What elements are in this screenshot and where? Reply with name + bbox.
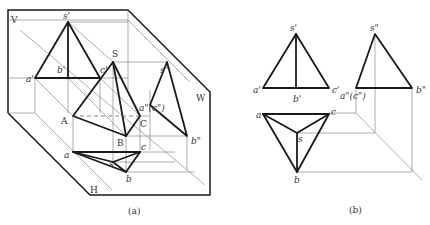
label-A: A [60,116,68,126]
label-b-dprime: b" [191,136,201,146]
caption-b: (b) [349,205,362,215]
label-a: a [256,110,261,120]
label-s: s [298,134,303,144]
side-view-triangle [356,34,412,88]
label-ac-dprime: a"(c") [139,103,165,113]
label-a-prime: a' [253,85,261,95]
label-s-dprime: s" [370,23,379,33]
label-B: B [117,138,124,148]
figure-b-orthographic: s' a' b' c' s" a"(c") b" a c s b (b) [253,23,426,215]
three-view-projection-diagram: V W H s' a' b' c' S s" a"(c") A B C b" a… [0,0,430,225]
top-view-triangle [263,114,329,172]
plane-label-v: V [10,15,18,25]
label-c: c [331,107,336,117]
label-b-prime: b' [293,94,301,104]
label-c-prime: c' [332,85,340,95]
label-s: s [109,159,114,169]
label-b-prime: b' [57,65,65,75]
label-s-prime: s' [63,11,70,21]
plane-label-h: H [90,185,98,195]
fold-line [128,20,190,82]
label-ac-dprime: a"(c") [340,91,366,101]
label-s-prime: s' [290,23,297,33]
label-a-prime: a' [26,74,34,84]
label-C: C [140,119,147,129]
label-b: b [294,175,300,185]
label-s-dprime: s" [160,65,169,75]
caption-a: (a) [128,206,140,216]
label-c: c [141,142,146,152]
plane-label-w: W [196,93,206,103]
label-b: b [126,174,132,184]
label-b-dprime: b" [416,85,426,95]
figure-a-pictorial: V W H s' a' b' c' S s" a"(c") A B C b" a… [8,10,210,216]
label-a: a [64,150,69,160]
label-c-prime: c' [100,65,108,75]
label-S: S [112,49,118,59]
